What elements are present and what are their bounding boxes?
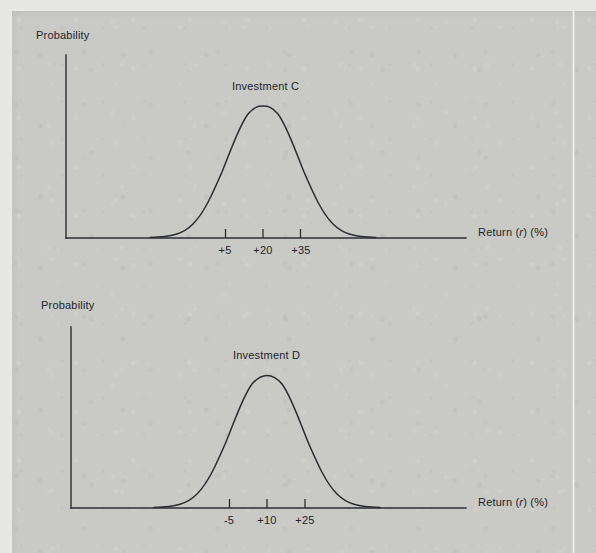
x-tick-label-c-1: +20 xyxy=(253,244,272,256)
x-axis-title-d-prefix: Return ( xyxy=(478,496,519,508)
x-axis-title-d: Return (r) (%) xyxy=(478,496,548,508)
x-axis-title-c-suffix: ) (%) xyxy=(523,226,548,238)
x-tick-label-c-0: +5 xyxy=(219,244,232,256)
distribution-curve-d xyxy=(154,376,380,508)
curve-label-investment-c: Investment C xyxy=(232,80,299,92)
distribution-curve-c xyxy=(150,106,376,238)
y-axis-title-d: Probability xyxy=(41,299,95,311)
y-axis-title-c: Probability xyxy=(36,29,90,41)
x-tick-label-d-1: +10 xyxy=(257,514,276,526)
x-tick-label-d-2: +25 xyxy=(295,514,314,526)
x-tick-label-c-2: +35 xyxy=(291,244,310,256)
chart-investment-c: Probability Investment C +5 +20 +35 Retu… xyxy=(0,0,596,276)
chart-investment-d: Probability Investment D -5 +10 +25 Retu… xyxy=(0,270,596,553)
chart-d-plot-area xyxy=(0,270,596,553)
curve-label-investment-d: Investment D xyxy=(233,349,300,361)
x-tick-label-d-0: -5 xyxy=(224,514,234,526)
x-axis-title-d-suffix: ) (%) xyxy=(523,496,548,508)
figure-page: Probability Investment C +5 +20 +35 Retu… xyxy=(0,0,596,553)
x-axis-title-c: Return (r) (%) xyxy=(478,226,548,238)
x-axis-title-c-prefix: Return ( xyxy=(478,226,519,238)
